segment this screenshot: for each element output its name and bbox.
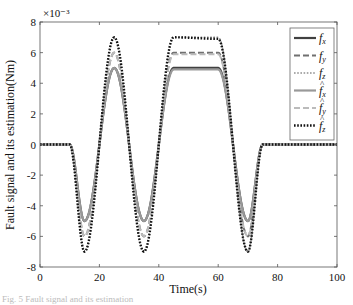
y-tick-label: 8	[31, 16, 37, 28]
fault-estimation-chart: 020406080100-8-6-4-202468 ×10⁻³ Time(s) …	[0, 0, 353, 305]
x-tick-label: 20	[94, 271, 106, 283]
y-tick-label: 2	[31, 108, 37, 120]
x-tick-label: 0	[37, 271, 43, 283]
x-tick-label: 100	[329, 271, 346, 283]
y-tick-label: 4	[31, 77, 37, 89]
y-tick-label: 6	[31, 47, 37, 59]
x-axis-label: Time(s)	[169, 282, 207, 296]
x-tick-label: 80	[272, 271, 284, 283]
y-tick-label: -2	[27, 169, 36, 181]
y-multiplier-label: ×10⁻³	[43, 7, 70, 19]
x-tick-label: 40	[153, 271, 165, 283]
y-tick-label: -6	[27, 230, 37, 242]
y-tick-label: 0	[31, 139, 37, 151]
figure-caption: Fig. 5 Fault signal and its estimation	[2, 294, 133, 304]
legend-box	[290, 28, 334, 140]
x-tick-label: 60	[213, 271, 225, 283]
legend: fxfyfzfx^fy^fz^	[290, 28, 334, 140]
y-tick-label: -4	[27, 200, 37, 212]
y-axis-label: Fault signal and its estimation(Nm)	[3, 60, 17, 230]
y-tick-label: -8	[27, 261, 37, 273]
